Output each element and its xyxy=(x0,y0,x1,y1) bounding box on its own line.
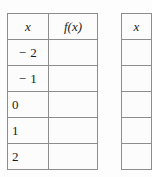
worksheet-canvas: x f(x) − 2 − 1 0 1 2 xyxy=(0,0,152,177)
cell-fx-value[interactable] xyxy=(49,144,98,170)
cell-x-value: − 1 xyxy=(8,66,49,92)
cell-fx-value[interactable] xyxy=(49,40,98,66)
cell-x-value[interactable] xyxy=(122,118,152,144)
cell-x-value[interactable] xyxy=(122,66,152,92)
table-row xyxy=(122,66,152,92)
cell-fx-value[interactable] xyxy=(49,118,98,144)
cell-x-value: 2 xyxy=(8,144,49,170)
table-row: − 1 xyxy=(8,66,98,92)
cell-x-value[interactable] xyxy=(122,40,152,66)
cell-x-value[interactable] xyxy=(122,92,152,118)
function-table-one: x f(x) − 2 − 1 0 1 2 xyxy=(7,13,98,170)
table-header-row: x f(x) xyxy=(8,14,98,40)
table-row xyxy=(122,144,152,170)
table-row xyxy=(122,40,152,66)
table-row: 1 xyxy=(8,118,98,144)
table-row xyxy=(122,118,152,144)
cell-x-value: 1 xyxy=(8,118,49,144)
table-row: 2 xyxy=(8,144,98,170)
header-cell-x: x xyxy=(122,14,152,40)
function-table-two: x xyxy=(121,13,152,170)
table-row: 0 xyxy=(8,92,98,118)
header-cell-fx: f(x) xyxy=(49,14,98,40)
cell-x-value[interactable] xyxy=(122,144,152,170)
cell-fx-value[interactable] xyxy=(49,66,98,92)
cell-fx-value[interactable] xyxy=(49,92,98,118)
header-cell-x: x xyxy=(8,14,49,40)
table-row xyxy=(122,92,152,118)
cell-x-value: − 2 xyxy=(8,40,49,66)
table-header-row: x xyxy=(122,14,152,40)
cell-x-value: 0 xyxy=(8,92,49,118)
table-row: − 2 xyxy=(8,40,98,66)
